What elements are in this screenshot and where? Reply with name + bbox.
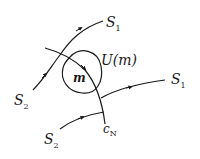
label-curve-cN: cN (103, 123, 117, 138)
label-sub: N (110, 129, 117, 138)
label-main: S (106, 14, 116, 30)
right-trajectory (101, 80, 165, 98)
label-s1-right: S1 (171, 72, 186, 90)
upper-trajectory (33, 21, 103, 90)
label-sub: 1 (116, 24, 121, 33)
label-sub: 2 (24, 102, 29, 111)
diagram-canvas (0, 0, 200, 159)
label-point-m: m (73, 72, 86, 84)
label-main: S (44, 131, 54, 147)
curve-cN (45, 48, 105, 124)
label-s2-bottom: S2 (44, 132, 59, 150)
label-s1-top: S1 (106, 15, 121, 33)
bottom-trajectory (60, 112, 104, 129)
label-sub: 2 (54, 141, 59, 150)
label-main: S (171, 71, 181, 87)
label-sub: 1 (181, 81, 186, 90)
label-s2-left: S2 (14, 93, 29, 111)
label-main: c (103, 122, 110, 136)
label-neighborhood: U(m) (101, 53, 137, 67)
label-main: S (14, 92, 24, 108)
arrow-icon (76, 28, 81, 31)
